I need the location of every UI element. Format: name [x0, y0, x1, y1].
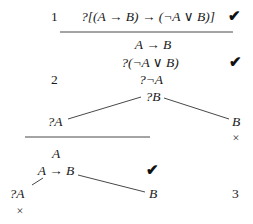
check-icon: ✔	[229, 54, 242, 70]
branch-left-query-a: ?A	[48, 114, 63, 130]
cross-icon: ×	[233, 130, 240, 146]
step-label-3: 3	[232, 186, 239, 202]
cross-icon: ×	[17, 203, 24, 219]
subgoal-b: ?B	[146, 89, 161, 105]
leaf-query-a: ?A	[10, 186, 25, 202]
edge-qB-to-qA	[68, 97, 141, 119]
step-label-2: 2	[51, 72, 58, 88]
connector-lines	[0, 0, 253, 224]
goal-formula: ?[(A → B) → (¬A ∨ B)]	[81, 9, 215, 25]
step-label-1: 1	[51, 9, 58, 25]
subgoal-disjunction: ?(¬A ∨ B)	[121, 55, 179, 71]
check-icon: ✔	[228, 8, 241, 24]
assumption-a: A	[52, 146, 60, 162]
leaf-b: B	[149, 186, 157, 202]
subgoal-neg-a: ?¬A	[139, 72, 163, 88]
edge-impl-to-B	[78, 175, 145, 192]
edge-impl-to-qA	[32, 178, 43, 185]
premise-implication: A → B	[135, 37, 172, 53]
check-icon: ✔	[146, 162, 159, 178]
edge-qB-to-B	[164, 98, 229, 119]
branch-right-b: B	[232, 114, 240, 130]
implication-again: A → B	[38, 163, 75, 179]
